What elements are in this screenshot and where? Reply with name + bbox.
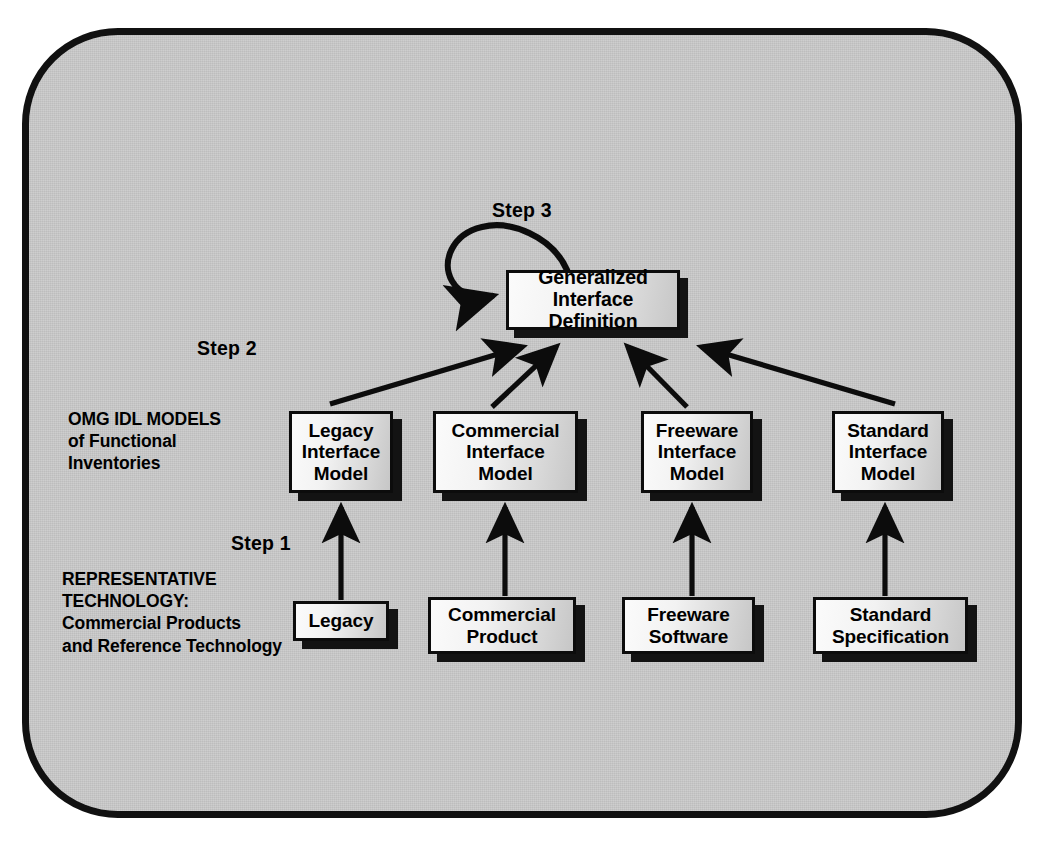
node-line-3: Model xyxy=(452,463,560,484)
label-step-2: Step 2 xyxy=(197,336,257,361)
node-line-3: Model xyxy=(302,463,380,484)
node-line-2: Product xyxy=(448,626,556,647)
node-legacy-interface-model[interactable]: Legacy Interface Model xyxy=(289,411,393,493)
node-standard-interface-model[interactable]: Standard Interface Model xyxy=(832,411,944,493)
node-line-2: Software xyxy=(647,626,730,647)
node-generalized-interface-definition[interactable]: Generalized Interface Definition xyxy=(506,270,680,330)
node-line-1: Commercial xyxy=(452,420,560,441)
node-line-1: Standard xyxy=(832,604,949,625)
node-line-1: Generalized xyxy=(509,267,677,289)
node-line-2: Interface xyxy=(656,441,739,462)
node-legacy[interactable]: Legacy xyxy=(293,601,389,641)
label-step-1: Step 1 xyxy=(231,531,291,556)
node-line-1: Standard xyxy=(847,420,929,441)
node-line-2: Interface Definition xyxy=(509,289,677,333)
node-line-3: Model xyxy=(847,463,929,484)
node-line-3: Model xyxy=(656,463,739,484)
node-commercial-product[interactable]: Commercial Product xyxy=(428,597,576,654)
node-commercial-interface-model[interactable]: Commercial Interface Model xyxy=(433,411,578,493)
row-label-omg-idl-models: OMG IDL MODELS of Functional Inventories xyxy=(68,408,221,475)
node-line-1: Legacy xyxy=(302,420,380,441)
node-line-2: Interface xyxy=(452,441,560,462)
node-line-1: Commercial xyxy=(448,604,556,625)
label-step-3: Step 3 xyxy=(492,198,552,223)
node-line-1: Freeware xyxy=(647,604,730,625)
row-label-representative-technology: REPRESENTATIVE TECHNOLOGY: Commercial Pr… xyxy=(62,568,282,657)
node-line-1: Freeware xyxy=(656,420,739,441)
node-line-1: Legacy xyxy=(309,610,374,631)
node-standard-specification[interactable]: Standard Specification xyxy=(813,597,968,654)
node-line-2: Interface xyxy=(847,441,929,462)
node-freeware-interface-model[interactable]: Freeware Interface Model xyxy=(641,411,753,493)
diagram-canvas: Step 3 Step 2 Step 1 OMG IDL MODELS of F… xyxy=(0,0,1055,851)
node-line-2: Specification xyxy=(832,626,949,647)
node-line-2: Interface xyxy=(302,441,380,462)
node-freeware-software[interactable]: Freeware Software xyxy=(622,597,755,654)
